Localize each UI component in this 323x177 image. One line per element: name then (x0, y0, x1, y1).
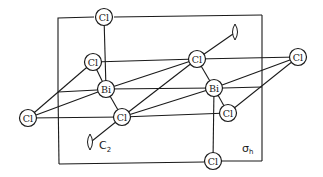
atom-cl-upper-mid: Cl (189, 51, 206, 68)
atom-cl-lower-mid: Cl (220, 105, 237, 122)
atom-bi-left: Bi (98, 81, 115, 98)
svg-text:Cl: Cl (117, 112, 127, 123)
bonds (28, 17, 298, 161)
svg-text:Cl: Cl (192, 54, 202, 65)
svg-text:Cl: Cl (208, 156, 218, 167)
svg-text:Bi: Bi (209, 83, 219, 94)
atom-cl-top: Cl (96, 9, 113, 26)
c2-label: C2 (99, 139, 111, 154)
atom-bi-right: Bi (206, 80, 223, 97)
atom-cl-bottom: Cl (205, 153, 222, 170)
atom-cl-upper-left: Cl (85, 54, 102, 71)
svg-text:Cl: Cl (293, 52, 303, 63)
svg-text:Cl: Cl (23, 113, 33, 124)
svg-text:Bi: Bi (101, 84, 111, 95)
atom-cl-center: Cl (114, 109, 131, 126)
atom-cl-right: Cl (290, 49, 307, 66)
c2-axis-symbol-top (233, 24, 238, 40)
atom-cl-left: Cl (20, 110, 37, 127)
sigma-h-label: σh (242, 142, 253, 156)
svg-text:Cl: Cl (88, 57, 98, 68)
c2-axis-symbol-bottom (88, 134, 93, 150)
bi2cl6-structure-diagram: Cl Cl Bi Cl Cl Cl Bi Cl Cl Cl C2 σh (0, 0, 323, 177)
svg-text:Cl: Cl (99, 12, 109, 23)
svg-text:Cl: Cl (223, 108, 233, 119)
